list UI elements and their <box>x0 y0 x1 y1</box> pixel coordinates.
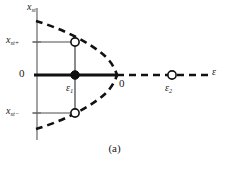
epsilon2-label: ε2 <box>165 83 172 94</box>
bifurcation-diagram-figure: xst xst+ 0 xst− ε1 0 ε2 ε (a) <box>0 0 229 170</box>
x-axis-origin-label: 0 <box>119 78 125 89</box>
figure-caption: (a) <box>0 143 229 154</box>
y-tick-label-x-st-plus: xst+ <box>6 35 19 46</box>
parabola-upper-branch <box>36 21 117 75</box>
epsilon2-unstable-point-marker <box>168 71 176 79</box>
epsilon1-label: ε1 <box>66 83 73 94</box>
y-axis-origin-label: 0 <box>19 68 25 79</box>
y-axis-label: xst <box>27 2 36 13</box>
x-axis-label: ε <box>212 67 216 77</box>
epsilon1-upper-unstable-point-marker <box>71 38 79 46</box>
parabola-lower-branch <box>36 75 117 129</box>
epsilon1-lower-unstable-point-marker <box>71 109 79 117</box>
y-tick-label-x-st-minus: xst− <box>6 106 19 117</box>
epsilon1-stable-point-marker <box>71 71 80 80</box>
